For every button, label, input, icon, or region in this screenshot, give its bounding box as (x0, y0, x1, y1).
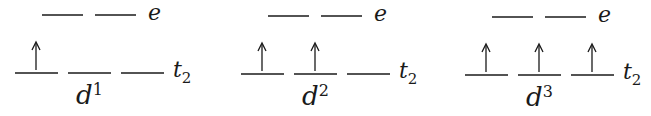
spin-up-arrow-icon (311, 43, 319, 71)
t2-level-label: t2 (399, 58, 417, 88)
spin-up-arrow-icon (535, 44, 543, 72)
t2-level-label: t2 (173, 57, 191, 87)
t2-level-label: t2 (623, 59, 641, 89)
e-level-label: e (374, 1, 387, 26)
configuration-label: d2 (302, 81, 329, 111)
e-level-label: e (148, 0, 161, 25)
panel-d1: et2d1 (0, 0, 217, 116)
spin-up-arrow-icon (258, 43, 266, 71)
energy-level-diagram: et2d1 (0, 0, 217, 116)
panel-d2: et2d2 (226, 0, 443, 116)
energy-level-diagram: et2d3 (450, 0, 651, 116)
panel-d3: et2d3 (450, 0, 651, 116)
configuration-label: d1 (76, 80, 103, 110)
spin-up-arrow-icon (32, 42, 40, 70)
energy-level-diagram: et2d2 (226, 0, 443, 116)
spin-up-arrow-icon (588, 44, 596, 72)
e-level-label: e (598, 2, 611, 27)
spin-up-arrow-icon (482, 44, 490, 72)
configuration-label: d3 (526, 82, 553, 112)
